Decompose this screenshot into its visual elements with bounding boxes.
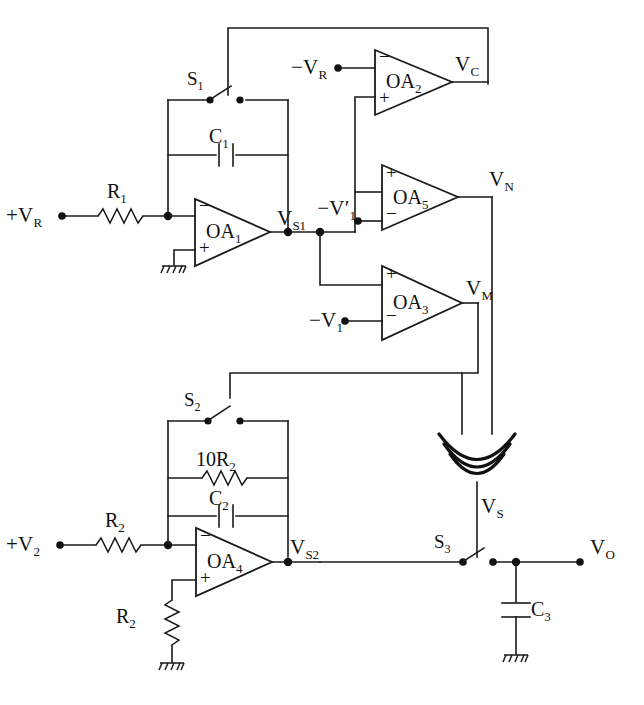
node-label-vs: VS — [481, 494, 504, 522]
component-label-r2-ground: R2 — [116, 605, 136, 632]
node-label-v1-negative: −V1 — [309, 308, 343, 336]
node-label-vo: VO — [590, 535, 615, 563]
oa1-plus-pin: + — [199, 238, 210, 257]
vc-to-s1-control-wire — [228, 28, 488, 95]
oa1-minus-pin: − — [199, 196, 210, 215]
oa5-plus-pin: + — [386, 163, 397, 182]
oa4-plus-pin: + — [200, 568, 211, 587]
switch-label-s1[interactable]: S1 — [187, 68, 204, 94]
node-label-vs1: VS1 — [277, 206, 306, 234]
component-label-10r2: 10R2 — [196, 448, 236, 475]
switch-label-s3[interactable]: S3 — [434, 531, 451, 557]
switch-s3-graphic[interactable] — [459, 548, 497, 566]
oa5-minus-pin: − — [386, 204, 397, 223]
vs1-node-branches — [316, 97, 382, 285]
node-label-vc: VC — [455, 52, 479, 80]
oa2-minus-pin: − — [379, 47, 390, 66]
switch-s2-graphic[interactable] — [204, 406, 243, 425]
component-label-r2-input: R2 — [105, 509, 125, 536]
node-label-vn: VN — [489, 167, 514, 195]
switch-s1-graphic[interactable] — [206, 86, 243, 104]
switch-label-s2[interactable]: S2 — [184, 389, 201, 415]
opamp-label-oa5: OA5 — [393, 186, 428, 213]
opamp-label-oa3: OA3 — [393, 291, 428, 318]
node-label-vm: VM — [466, 276, 493, 304]
oa1-feedback-network — [168, 100, 288, 232]
vm-to-s2-control-wire — [230, 303, 478, 398]
node-label-v2-positive: +V2 — [6, 532, 40, 560]
node-label-vs2: VS2 — [290, 535, 319, 563]
v2-input-branch — [56, 538, 196, 552]
opamp-label-oa1: OA1 — [206, 220, 241, 247]
component-label-r1: R1 — [107, 180, 127, 207]
oa4-minus-pin: − — [200, 526, 211, 545]
component-label-c2: C2 — [209, 487, 229, 514]
oa2-plus-pin: + — [379, 88, 390, 107]
opamp-label-oa4: OA4 — [207, 550, 242, 577]
node-label-vr-negative: −VR — [291, 55, 327, 83]
vr-input-branch — [58, 209, 195, 223]
component-label-c1: C1 — [209, 125, 229, 152]
node-label-vr-positive: +VR — [6, 203, 42, 231]
component-label-c3: C3 — [531, 598, 551, 625]
oa3-plus-pin: + — [386, 264, 397, 283]
circuit-diagram: +VR R1 S1 C1 OA1 − + −VR OA2 − + VC VS1 … — [0, 0, 644, 705]
node-label-v1-prime-negative: −V′1 — [317, 196, 356, 224]
opamp-label-oa2: OA2 — [386, 70, 421, 97]
oa3-minus-pin: − — [386, 306, 397, 325]
